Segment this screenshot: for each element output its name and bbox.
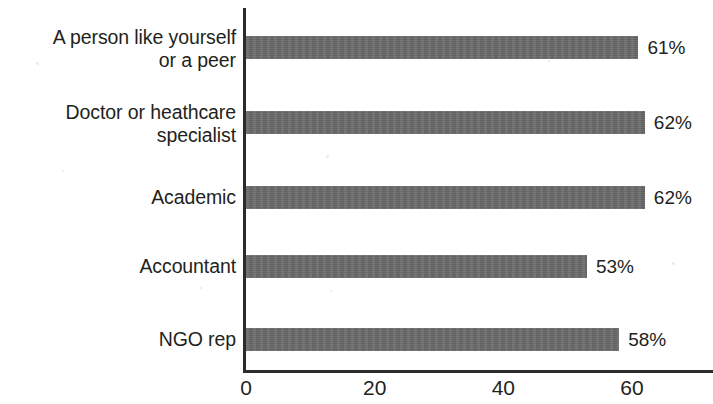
bar-value-4: 58% xyxy=(628,328,666,351)
y-axis-label-2: Academic xyxy=(0,186,236,209)
bar-3 xyxy=(246,255,587,278)
y-axis-label-0: A person like yourself or a peer xyxy=(0,26,236,72)
bar-2 xyxy=(246,186,645,209)
x-axis-line xyxy=(243,370,713,373)
y-axis-label-1: Doctor or heathcare specialist xyxy=(0,101,236,147)
x-tick-label-2: 40 xyxy=(473,374,533,402)
scan-speckle xyxy=(326,155,329,158)
scan-speckle xyxy=(200,287,202,289)
bar-1 xyxy=(246,111,645,134)
bar-4 xyxy=(246,328,619,351)
x-tick-label-1: 20 xyxy=(345,374,405,402)
bar-value-3: 53% xyxy=(596,255,634,278)
scan-speckle xyxy=(548,60,550,62)
bar-chart: A person like yourself or a peer Doctor … xyxy=(0,0,713,404)
scan-speckle xyxy=(330,290,332,292)
scan-speckle xyxy=(62,170,64,172)
x-tick-label-3: 60 xyxy=(602,374,662,402)
bar-value-2: 62% xyxy=(654,186,692,209)
y-axis-label-3: Accountant xyxy=(0,255,236,278)
bar-value-0: 61% xyxy=(647,36,685,59)
scan-speckle xyxy=(672,262,675,265)
bar-0 xyxy=(246,36,638,59)
x-tick-label-0: 0 xyxy=(216,374,276,402)
y-axis-label-4: NGO rep xyxy=(0,328,236,351)
bar-value-1: 62% xyxy=(654,111,692,134)
